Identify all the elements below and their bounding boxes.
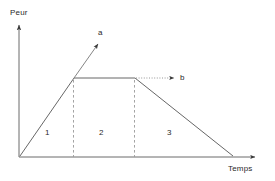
annotation-label-a: a <box>98 29 103 37</box>
curve-segment-rise <box>20 78 74 156</box>
x-axis-label: Temps <box>228 165 253 173</box>
fear-over-time-diagram: Peur Temps a b 1 2 3 <box>0 0 275 181</box>
annotation-label-b: b <box>180 74 185 82</box>
annotation-arrow-a <box>74 44 98 78</box>
diagram-canvas <box>0 0 275 181</box>
y-axis-label: Peur <box>10 9 28 17</box>
curve-segment-decline <box>135 78 233 156</box>
phase-label-1: 1 <box>45 129 50 137</box>
phase-label-3: 3 <box>167 129 172 137</box>
phase-label-2: 2 <box>99 129 104 137</box>
